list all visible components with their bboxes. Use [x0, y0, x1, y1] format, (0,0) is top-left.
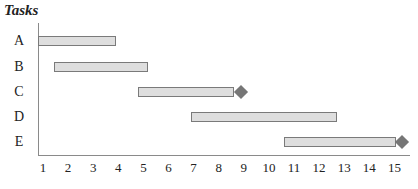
x-tick-label: 13	[334, 160, 354, 176]
x-tick-label: 5	[133, 160, 153, 176]
x-tick-label: 3	[83, 160, 103, 176]
task-label: A	[12, 33, 26, 49]
x-tick-label: 6	[159, 160, 179, 176]
task-label: D	[12, 109, 26, 125]
x-tick-label: 12	[309, 160, 329, 176]
task-label: B	[12, 59, 26, 75]
x-tick-label: 1	[33, 160, 53, 176]
x-tick-label: 4	[108, 160, 128, 176]
milestone-diamond-icon	[234, 85, 248, 99]
x-tick-label: 10	[259, 160, 279, 176]
x-tick-label: 7	[184, 160, 204, 176]
x-axis-line	[38, 155, 410, 156]
task-label: C	[12, 84, 26, 100]
x-tick-label: 14	[359, 160, 379, 176]
task-label: E	[12, 134, 26, 150]
x-tick-label: 8	[209, 160, 229, 176]
x-tick-label: 9	[234, 160, 254, 176]
task-bar	[284, 137, 396, 147]
task-bar	[191, 112, 337, 122]
task-bar	[138, 87, 233, 97]
chart-title: Tasks	[4, 2, 38, 19]
task-bar	[38, 36, 116, 46]
milestone-diamond-icon	[395, 135, 409, 149]
x-tick-label: 11	[284, 160, 304, 176]
x-tick-label: 2	[58, 160, 78, 176]
task-bar	[54, 62, 148, 72]
x-tick-label: 15	[384, 160, 404, 176]
